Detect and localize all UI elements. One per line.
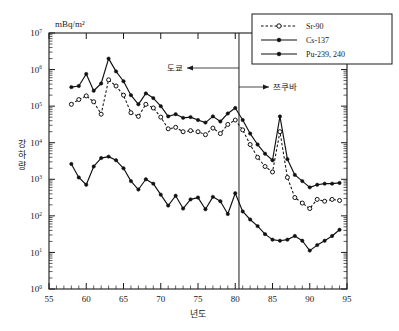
- data-point-pu-239-240: [338, 228, 341, 231]
- x-axis-tick-label: 95: [343, 294, 353, 304]
- data-point-cs-137: [234, 106, 237, 109]
- data-point-cs-137: [301, 179, 304, 182]
- data-point-sr-90: [189, 129, 193, 133]
- data-point-cs-137: [159, 104, 162, 107]
- data-point-sr-90: [233, 118, 237, 122]
- plot-frame: [49, 33, 347, 289]
- data-point-sr-90: [107, 78, 111, 82]
- y-axis-tick-label: 102: [30, 211, 42, 221]
- data-point-cs-137: [241, 118, 244, 121]
- data-point-sr-90: [84, 94, 88, 98]
- data-point-cs-137: [196, 118, 199, 121]
- data-point-pu-239-240: [271, 238, 274, 241]
- data-point-pu-239-240: [219, 200, 222, 203]
- data-point-sr-90: [144, 102, 148, 106]
- x-axis-tick-label: 65: [119, 294, 129, 304]
- data-point-pu-239-240: [137, 188, 140, 191]
- y-axis-unit-label: mBq/m²: [55, 19, 85, 29]
- data-point-cs-137: [211, 115, 214, 118]
- data-point-cs-137: [286, 157, 289, 160]
- data-point-pu-239-240: [189, 198, 192, 201]
- data-point-sr-90: [338, 198, 342, 202]
- legend-sample-marker-0: [277, 24, 281, 28]
- data-point-pu-239-240: [70, 162, 73, 165]
- data-point-sr-90: [308, 207, 312, 211]
- data-point-sr-90: [166, 127, 170, 131]
- data-point-sr-90: [69, 102, 73, 106]
- data-point-sr-90: [203, 133, 207, 137]
- data-point-sr-90: [226, 122, 230, 126]
- data-point-cs-137: [137, 103, 140, 106]
- data-point-pu-239-240: [226, 212, 229, 215]
- data-point-cs-137: [308, 186, 311, 189]
- data-point-pu-239-240: [330, 234, 333, 237]
- data-point-cs-137: [271, 159, 274, 162]
- data-point-sr-90: [315, 197, 319, 201]
- data-point-cs-137: [77, 84, 80, 87]
- data-point-sr-90: [241, 128, 245, 132]
- data-point-cs-137: [129, 93, 132, 96]
- data-point-pu-239-240: [204, 208, 207, 211]
- data-point-pu-239-240: [99, 156, 102, 159]
- data-point-cs-137: [263, 152, 266, 155]
- x-axis-tick-label: 55: [45, 294, 55, 304]
- data-point-cs-137: [144, 92, 147, 95]
- y-axis-tick-label: 104: [30, 138, 42, 148]
- data-point-pu-239-240: [234, 191, 237, 194]
- data-point-sr-90: [248, 143, 252, 147]
- data-point-pu-239-240: [174, 194, 177, 197]
- data-point-pu-239-240: [129, 179, 132, 182]
- data-point-cs-137: [330, 182, 333, 185]
- data-point-cs-137: [174, 112, 177, 115]
- data-point-sr-90: [151, 106, 155, 110]
- series-line-sr-90: [71, 80, 339, 209]
- y-axis-tick-label: 100: [30, 284, 42, 294]
- data-point-cs-137: [323, 182, 326, 185]
- data-point-pu-239-240: [316, 243, 319, 246]
- chart-canvas: 1071061051041031021011005560657075808590…: [0, 0, 399, 331]
- y-axis-tick-label: 105: [30, 101, 42, 111]
- data-point-cs-137: [189, 115, 192, 118]
- x-axis-tick-label: 85: [268, 294, 278, 304]
- data-point-cs-137: [219, 120, 222, 123]
- legend-sample-marker-1: [277, 38, 281, 42]
- data-point-cs-137: [226, 112, 229, 115]
- data-point-cs-137: [114, 70, 117, 73]
- legend-label-pu-239-240: Pu-239, 240: [306, 50, 345, 59]
- data-point-cs-137: [152, 96, 155, 99]
- data-point-sr-90: [218, 132, 222, 136]
- data-point-pu-239-240: [159, 193, 162, 196]
- x-axis-tick-label: 80: [231, 294, 241, 304]
- x-axis-title: 년도: [190, 309, 206, 319]
- data-point-cs-137: [107, 57, 110, 60]
- data-point-pu-239-240: [196, 196, 199, 199]
- data-point-pu-239-240: [278, 239, 281, 242]
- data-point-pu-239-240: [308, 249, 311, 252]
- data-point-cs-137: [293, 173, 296, 176]
- data-point-pu-239-240: [167, 204, 170, 207]
- x-axis-tick-label: 70: [156, 294, 166, 304]
- y-axis-tick-label: 103: [30, 174, 42, 184]
- data-point-sr-90: [293, 196, 297, 200]
- x-axis-tick-label: 60: [82, 294, 92, 304]
- fallout-deposition-chart: 1071061051041031021011005560657075808590…: [0, 0, 399, 331]
- data-point-pu-239-240: [122, 167, 125, 170]
- data-point-cs-137: [256, 143, 259, 146]
- data-point-cs-137: [181, 116, 184, 119]
- y-axis-tick-label: 106: [30, 64, 42, 74]
- annotation-label-tsukuba: 쯔쿠바: [273, 82, 297, 92]
- data-point-sr-90: [278, 130, 282, 134]
- data-point-cs-137: [204, 121, 207, 124]
- data-point-pu-239-240: [241, 210, 244, 213]
- data-point-sr-90: [196, 130, 200, 134]
- data-point-cs-137: [92, 89, 95, 92]
- data-point-cs-137: [122, 80, 125, 83]
- data-point-sr-90: [300, 201, 304, 205]
- data-point-sr-90: [256, 155, 260, 159]
- data-point-sr-90: [129, 111, 133, 115]
- x-axis-tick-label: 75: [194, 294, 204, 304]
- data-point-pu-239-240: [92, 165, 95, 168]
- data-point-sr-90: [285, 175, 289, 179]
- annotation-arrow-left: [187, 65, 193, 70]
- data-point-sr-90: [263, 164, 267, 168]
